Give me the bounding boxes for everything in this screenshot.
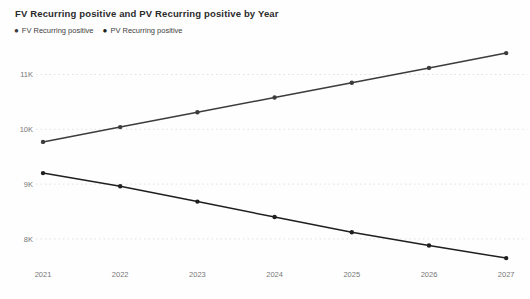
- y-axis-tick-label: 8K: [24, 235, 33, 244]
- data-point-fv[interactable]: [504, 51, 508, 55]
- x-axis-tick-label: 2025: [343, 270, 360, 279]
- y-axis-tick-label: 11K: [20, 70, 33, 79]
- data-point-pv[interactable]: [504, 256, 508, 260]
- line-chart: 8K9K10K11K2021202220232024202520262027: [0, 0, 530, 299]
- x-axis-tick-label: 2021: [35, 270, 52, 279]
- data-point-pv[interactable]: [272, 215, 276, 219]
- y-axis-tick-label: 10K: [20, 125, 33, 134]
- x-axis-tick-label: 2026: [421, 270, 438, 279]
- x-axis-tick-label: 2023: [189, 270, 206, 279]
- data-point-fv[interactable]: [350, 81, 354, 85]
- y-axis-tick-label: 9K: [24, 180, 33, 189]
- x-axis-tick-label: 2027: [498, 270, 515, 279]
- chart-container: FV Recurring positive and PV Recurring p…: [0, 0, 530, 299]
- data-point-pv[interactable]: [427, 243, 431, 247]
- data-point-pv[interactable]: [350, 230, 354, 234]
- x-axis-tick-label: 2024: [266, 270, 283, 279]
- data-point-fv[interactable]: [41, 140, 45, 144]
- data-point-fv[interactable]: [427, 66, 431, 70]
- data-point-fv[interactable]: [195, 110, 199, 114]
- data-point-pv[interactable]: [118, 184, 122, 188]
- data-point-fv[interactable]: [118, 125, 122, 129]
- data-point-fv[interactable]: [272, 95, 276, 99]
- data-point-pv[interactable]: [195, 199, 199, 203]
- data-point-pv[interactable]: [41, 171, 45, 175]
- x-axis-tick-label: 2022: [112, 270, 129, 279]
